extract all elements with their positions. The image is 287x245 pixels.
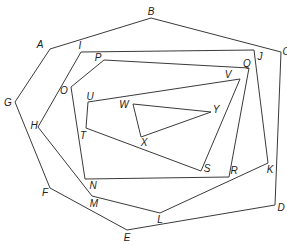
vertex-label-n: N	[89, 181, 96, 191]
vertex-label-w: W	[119, 100, 128, 110]
vertex-label-a: A	[37, 40, 44, 50]
vertex-label-u: U	[86, 92, 93, 102]
vertex-label-r: R	[230, 166, 237, 176]
quadrilateral-uvst	[86, 79, 240, 171]
triangle-wyx	[133, 104, 211, 137]
vertex-label-j: J	[258, 52, 263, 62]
vertex-label-f: F	[42, 188, 48, 198]
hexagon-ijklmh	[38, 50, 268, 213]
vertex-label-c: C	[282, 47, 287, 57]
vertex-label-x: X	[141, 138, 148, 148]
vertex-label-v: V	[225, 70, 232, 80]
vertex-label-p: P	[95, 53, 102, 63]
vertex-label-o: O	[60, 86, 68, 96]
vertex-label-k: K	[267, 165, 274, 175]
vertex-label-d: D	[277, 203, 284, 213]
vertex-label-h: H	[30, 121, 37, 131]
vertex-label-y: Y	[213, 105, 220, 115]
vertex-label-s: S	[204, 164, 211, 174]
diagram-canvas	[0, 0, 287, 245]
vertex-label-g: G	[4, 98, 12, 108]
vertex-label-q: Q	[243, 59, 251, 69]
vertex-label-l: L	[157, 215, 163, 225]
vertex-label-m: M	[90, 199, 98, 209]
vertex-label-e: E	[124, 233, 131, 243]
nested-polygon-diagram: ABCDEFGHIJKLMNOPQRSTUVWXY	[0, 0, 287, 245]
vertex-label-i: I	[79, 41, 82, 51]
vertex-label-b: B	[148, 7, 155, 17]
vertex-label-t: T	[80, 131, 86, 141]
